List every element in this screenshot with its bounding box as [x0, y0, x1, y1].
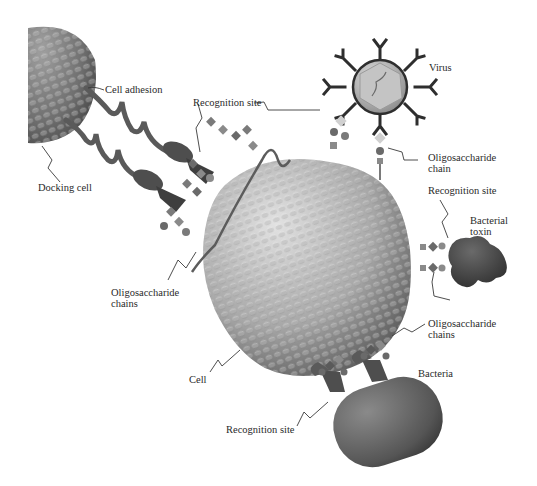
label-cell: Cell — [189, 374, 207, 385]
label-bacterial-toxin: Bacterial toxin — [470, 215, 508, 237]
label-cell-adhesion: Cell adhesion — [105, 84, 162, 95]
label-oligosaccharide-chains-right: Oligosaccharide chains — [428, 318, 496, 340]
label-bacteria: Bacteria — [418, 368, 453, 379]
diagram-artwork — [0, 0, 537, 486]
label-recognition-site-right: Recognition site — [428, 185, 497, 196]
label-oligosaccharide-chains-left: Oligosaccharide chains — [111, 287, 179, 309]
label-oligosaccharide-chain: Oligosaccharide chain — [428, 152, 496, 174]
bacterial-toxin — [448, 236, 506, 287]
label-docking-cell: Docking cell — [38, 182, 92, 193]
cell-recognition-diagram: Cell adhesion Docking cell Recognition s… — [0, 0, 537, 486]
label-recognition-site-top: Recognition site — [193, 97, 262, 108]
docking-cell — [28, 27, 96, 144]
label-recognition-site-bottom: Recognition site — [226, 424, 295, 435]
toxin-oligosaccharide-chains — [420, 242, 446, 273]
label-virus: Virus — [429, 62, 452, 73]
